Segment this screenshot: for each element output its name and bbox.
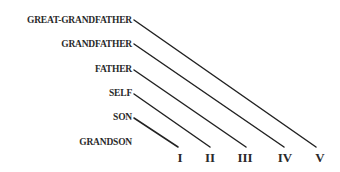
degree-iii: III	[237, 151, 252, 164]
line-son-to-i	[134, 118, 178, 147]
label-self: SELF	[109, 88, 132, 98]
label-father: FATHER	[95, 64, 132, 74]
kinship-diagram-lines	[0, 0, 340, 172]
label-grandfather: GRANDFATHER	[61, 39, 132, 49]
line-self-to-ii	[134, 94, 210, 147]
label-great-grandfather: GREAT-GRANDFATHER	[27, 15, 132, 25]
line-grandfather-to-iv	[134, 44, 284, 147]
degree-i: I	[177, 151, 182, 164]
line-great-grandfather-to-v	[134, 20, 316, 147]
label-grandson: GRANDSON	[79, 137, 132, 147]
degree-ii: II	[205, 151, 215, 164]
degree-iv: IV	[278, 151, 292, 164]
label-son: SON	[113, 112, 132, 122]
degree-v: V	[315, 151, 324, 164]
